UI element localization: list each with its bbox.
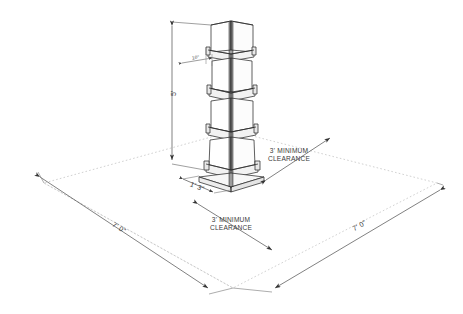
pad-right-dim-line [275, 190, 440, 288]
clearance-ne-line2: CLEARANCE [268, 155, 310, 163]
clearance-sw-line2: CLEARANCE [210, 224, 252, 232]
dimension-pad-right [233, 183, 443, 292]
tower-base-plate [199, 173, 264, 192]
tower-assembly [199, 21, 264, 192]
pad-right-ext-a [437, 183, 443, 185]
base-ext-a [183, 176, 199, 179]
pad-left-ext-b [209, 288, 233, 294]
drawing-vector-layer [0, 0, 463, 314]
clearance-ne-line1: 3' MINIMUM [268, 147, 310, 155]
pad-right-ext-b [233, 288, 272, 292]
height-ext-top [172, 22, 211, 25]
tower-section-3 [211, 98, 253, 132]
pad-left-ext-a [38, 172, 44, 183]
height-ext-bottom [172, 164, 205, 170]
label-clearance-ne: 3' MINIMUM CLEARANCE [268, 147, 310, 164]
label-clearance-sw: 3' MINIMUM CLEARANCE [210, 216, 252, 233]
clearance-sw-line1: 3' MINIMUM [210, 216, 252, 224]
dimension-height [172, 22, 211, 170]
tower-section-2 [212, 58, 252, 92]
tower-section-1 [211, 21, 253, 52]
label-tower-height: 5' [170, 90, 177, 96]
technical-drawing-canvas: 5' 10" 1' 3" 3' MINIMUM CLEARANCE 3' MIN… [0, 0, 463, 314]
